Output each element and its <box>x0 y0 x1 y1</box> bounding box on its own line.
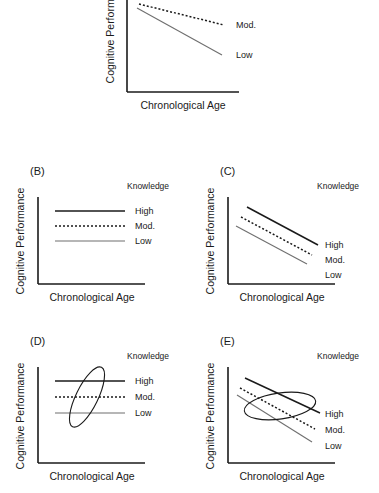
panel-d-y-axis-label: Cognitive Performance <box>14 362 26 469</box>
panel-c: (C) Knowledge High Mod. Low Chronologica… <box>192 158 379 308</box>
panel-e-x-axis-label: Chronological Age <box>239 470 324 482</box>
panel-e-label-mod: Mod. <box>325 425 345 435</box>
panel-b-legend-title: Knowledge <box>127 181 169 191</box>
panel-e-series-low <box>237 395 312 442</box>
panel-c-label-mod: Mod. <box>325 255 345 265</box>
panel-b-label-high: High <box>135 206 154 216</box>
panel-a-label-mod: Mod. <box>236 20 256 30</box>
panel-d-legend-title: Knowledge <box>127 351 169 361</box>
panel-b-x-axis-label: Chronological Age <box>49 291 134 303</box>
panel-d-letter: (D) <box>30 335 45 347</box>
panel-a-series-mod <box>139 4 224 25</box>
panel-b-label-mod: Mod. <box>135 221 155 231</box>
panel-a: (A) Knowledge High Mod. Low Chronologica… <box>96 0 286 123</box>
panel-a-y-axis-label: Cognitive Performance <box>104 0 116 83</box>
panel-e-series-high <box>245 378 320 413</box>
panel-b-letter: (B) <box>30 165 45 177</box>
panel-b-y-axis-label: Cognitive Performance <box>14 187 26 294</box>
figure-panel-grid: (A) Knowledge High Mod. Low Chronologica… <box>0 0 379 493</box>
panel-e-legend-title: Knowledge <box>317 351 359 361</box>
panel-d-label-high: High <box>135 376 154 386</box>
panel-c-label-low: Low <box>325 270 342 280</box>
panel-a-x-axis-label: Chronological Age <box>140 99 225 111</box>
panel-e: (E) Knowledge High Mod. Low Chronologica… <box>192 328 379 493</box>
panel-d: (D) Knowledge High Mod. Low Chronologica… <box>2 328 192 493</box>
panel-e-series-mod <box>240 388 315 429</box>
panel-a-series-low <box>137 8 222 55</box>
panel-e-label-low: Low <box>325 441 342 451</box>
panel-d-label-mod: Mod. <box>135 392 155 402</box>
panel-c-series-low <box>236 226 307 264</box>
panel-c-x-axis-label: Chronological Age <box>239 291 324 303</box>
panel-e-y-axis-label: Cognitive Performance <box>204 362 216 469</box>
panel-b: (B) Knowledge High Mod. Low Chronologica… <box>2 158 192 308</box>
panel-e-letter: (E) <box>220 335 235 347</box>
panel-c-series-high <box>247 207 318 245</box>
panel-d-label-low: Low <box>135 408 152 418</box>
panel-c-letter: (C) <box>220 165 235 177</box>
panel-e-label-high: High <box>325 409 344 419</box>
panel-c-y-axis-label: Cognitive Performance <box>204 187 216 294</box>
panel-b-label-low: Low <box>135 236 152 246</box>
panel-c-legend-title: Knowledge <box>317 181 359 191</box>
panel-a-label-low: Low <box>236 50 253 60</box>
panel-c-label-high: High <box>325 240 344 250</box>
panel-d-x-axis-label: Chronological Age <box>49 470 134 482</box>
